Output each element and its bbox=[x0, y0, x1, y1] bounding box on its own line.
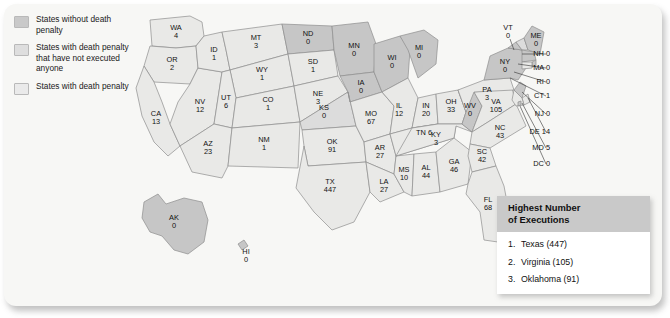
state-label-il: IL12 bbox=[395, 101, 403, 119]
state-label-al: AL44 bbox=[421, 163, 430, 181]
legend-label-death-penalty: States with death penalty bbox=[36, 81, 129, 92]
legend-item-no-death-penalty: States without death penalty bbox=[14, 14, 134, 35]
rank-text: Virginia (105) bbox=[521, 257, 573, 268]
infobox-title-line1: Highest Number bbox=[508, 202, 641, 214]
legend-swatch-no-death-penalty bbox=[14, 16, 29, 28]
legend-item-not-executed: States with death penalty that have not … bbox=[14, 42, 134, 74]
state-label-nh: NH 0 bbox=[533, 49, 550, 58]
state-label-va: VA105 bbox=[490, 97, 502, 115]
legend-item-death-penalty: States with death penalty bbox=[14, 81, 134, 95]
state-label-in: IN20 bbox=[422, 101, 430, 119]
state-label-ga: GA46 bbox=[449, 157, 460, 175]
infobox-ranking-list: 1. Texas (447) 2. Virginia (105) 3. Okla… bbox=[497, 232, 650, 294]
state-label-ct: CT 1 bbox=[534, 91, 550, 100]
state-label-az: AZ23 bbox=[203, 139, 213, 157]
list-item: 3. Oklahoma (91) bbox=[508, 274, 641, 285]
rank-number: 2. bbox=[508, 257, 521, 268]
state-label-ok: OK91 bbox=[327, 137, 338, 155]
state-label-vt: VT0 bbox=[503, 23, 513, 41]
state-label-dc: DC 0 bbox=[533, 159, 550, 168]
state-label-ma: MA 0 bbox=[533, 63, 550, 72]
state-label-de: DE 14 bbox=[529, 127, 550, 136]
state-label-tx: TX447 bbox=[324, 177, 336, 195]
us-map: WA4OR2CA13NV12ID1MT3WY1UT6AZ23NM1CO1ND0S… bbox=[118, 6, 554, 298]
state-label-oh: OH33 bbox=[445, 97, 456, 115]
state-label-ar: AR27 bbox=[375, 143, 385, 161]
state-label-md: MD 5 bbox=[532, 143, 550, 152]
state-label-tn: TN 6 bbox=[416, 128, 432, 137]
infobox-title: Highest Number of Executions bbox=[497, 196, 650, 232]
state-label-la: LA27 bbox=[379, 177, 388, 195]
state-label-ca: CA13 bbox=[151, 109, 161, 127]
infobox-title-line2: of Executions bbox=[508, 214, 641, 226]
rank-number: 1. bbox=[508, 239, 521, 250]
rank-text: Texas (447) bbox=[521, 239, 567, 250]
rank-text: Oklahoma (91) bbox=[521, 274, 579, 285]
state-label-ms: MS10 bbox=[398, 165, 409, 183]
state-label-fl: FL68 bbox=[484, 195, 493, 213]
state-label-hi: HI0 bbox=[242, 247, 249, 265]
map-legend: States without death penalty States with… bbox=[14, 14, 134, 102]
highest-executions-box: Highest Number of Executions 1. Texas (4… bbox=[497, 196, 650, 294]
rank-number: 3. bbox=[508, 274, 521, 285]
list-item: 2. Virginia (105) bbox=[508, 257, 641, 268]
legend-swatch-death-penalty bbox=[14, 83, 29, 95]
state-label-nv: NV12 bbox=[195, 97, 205, 115]
state-label-nj: NJ 0 bbox=[535, 109, 550, 118]
state-dc bbox=[518, 101, 521, 106]
infographic-root: States without death penalty States with… bbox=[0, 0, 670, 318]
state-label-ri: RI 0 bbox=[536, 77, 550, 86]
list-item: 1. Texas (447) bbox=[508, 239, 641, 250]
legend-swatch-not-executed bbox=[14, 44, 29, 56]
